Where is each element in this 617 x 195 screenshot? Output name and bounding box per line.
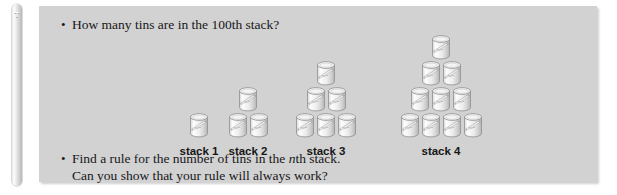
tin [463, 112, 483, 139]
stack-1-tins [178, 112, 220, 138]
tin-row [399, 112, 483, 139]
tin-icon [421, 112, 441, 139]
tin-row [189, 112, 210, 139]
tin-icon [337, 112, 357, 139]
tin-row [227, 112, 269, 139]
tin-icon [452, 86, 472, 113]
tin [189, 112, 209, 139]
tin [337, 112, 357, 139]
tin [238, 86, 258, 113]
tin-icon [442, 112, 462, 139]
tin-icon [189, 112, 209, 139]
tin [327, 86, 347, 113]
tin-icon [400, 112, 420, 139]
tin [431, 34, 451, 61]
question-top-text: How many tins are in the 100th stack? [72, 16, 279, 33]
tin [306, 86, 326, 113]
question-bottom-line1b: th stack. [295, 151, 340, 166]
tin [400, 112, 420, 139]
stack-2-tins [217, 86, 279, 138]
tin [228, 112, 248, 139]
tin-icon [410, 86, 430, 113]
tin-row [316, 60, 337, 87]
stack-3-tins [284, 60, 368, 138]
stack-4-tins [389, 34, 493, 138]
stack-2: stack 2 [217, 86, 279, 138]
tin-icon [431, 34, 451, 61]
question-bottom: • Find a rule for the number of tins in … [61, 150, 340, 184]
bullet-icon: • [61, 150, 72, 167]
tin-icon [463, 112, 483, 139]
screenshot-root: T • How many tins are in the 100th stack… [0, 0, 617, 195]
tin-icon [228, 112, 248, 139]
tin-row [420, 60, 462, 87]
tin [249, 112, 269, 139]
tin [442, 60, 462, 87]
tin-icon [442, 60, 462, 87]
tin-row [431, 34, 452, 61]
tin-icon [421, 60, 441, 87]
stack-1: stack 1 [178, 112, 220, 138]
stack-4-label: stack 4 [421, 145, 460, 157]
content-panel: • How many tins are in the 100th stack? … [39, 6, 597, 182]
tin [431, 86, 451, 113]
tin-row [295, 112, 358, 139]
tin-icon [295, 112, 315, 139]
tin-icon [306, 86, 326, 113]
tin-row [238, 86, 259, 113]
tin [410, 86, 430, 113]
text-tool-icon: T [12, 11, 22, 19]
tin-row [305, 86, 347, 113]
tin [316, 60, 336, 87]
question-bottom-text: Find a rule for the number of tins in th… [72, 150, 340, 184]
tin-icon [431, 86, 451, 113]
tin [295, 112, 315, 139]
tin-icon [327, 86, 347, 113]
bullet-icon: • [61, 16, 72, 33]
question-bottom-line2: Can you show that your rule will always … [72, 167, 340, 184]
tin-icon [238, 86, 258, 113]
tin-row [410, 86, 473, 113]
tin-icon [316, 60, 336, 87]
tin [442, 112, 462, 139]
stack-3: stack 3 [284, 60, 368, 138]
side-scroll-bar[interactable]: T [12, 4, 22, 186]
tin [452, 86, 472, 113]
tin [421, 60, 441, 87]
question-bottom-line1a: Find a rule for the number of tins in th… [72, 151, 289, 166]
tin-icon [249, 112, 269, 139]
tin [316, 112, 336, 139]
tin [421, 112, 441, 139]
tin-icon [316, 112, 336, 139]
question-top: • How many tins are in the 100th stack? [61, 16, 279, 33]
stack-4: stack 4 [389, 34, 493, 138]
